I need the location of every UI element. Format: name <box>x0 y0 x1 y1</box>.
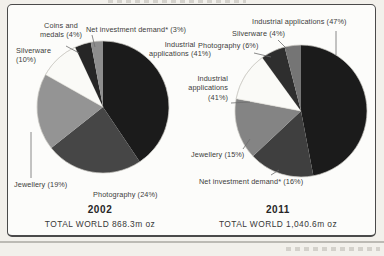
callout-industrial-41-2011: Industrial applications (41%) <box>184 74 228 102</box>
callout-industrial-2011: Industrial applications (47%) <box>252 17 347 26</box>
scanned-figure: Coins and medals (4%) Net investment dem… <box>0 0 384 256</box>
year-label-2011: 2011 <box>233 204 323 215</box>
pie-segment <box>301 45 367 176</box>
total-label-2011: TOTAL WORLD 1,040.6m oz <box>198 219 358 229</box>
callout-silverware-2002: Silverware (10%) <box>16 46 51 65</box>
callout-jewellery-2002: Jewellery (19%) <box>14 180 67 189</box>
pie-2011 <box>235 45 367 177</box>
callout-jewellery-2011: Jewellery (15%) <box>191 150 244 159</box>
pie-2002 <box>37 41 169 173</box>
callout-net-investment-2002: Net investment demand* (3%) <box>86 25 186 34</box>
year-label-2002: 2002 <box>55 204 145 215</box>
callout-photography-2011: Photography (6%) <box>198 41 258 50</box>
callout-coins-and-medals-2002: Coins and medals (4%) <box>30 21 92 40</box>
callout-silverware-2011: Silverware (4%) <box>232 29 285 38</box>
total-label-2002: TOTAL WORLD 868.3m oz <box>20 219 180 229</box>
callout-net-investment-2011: Net investment demand* (16%) <box>199 177 303 186</box>
callout-photography-2002: Photography (24%) <box>93 190 158 199</box>
